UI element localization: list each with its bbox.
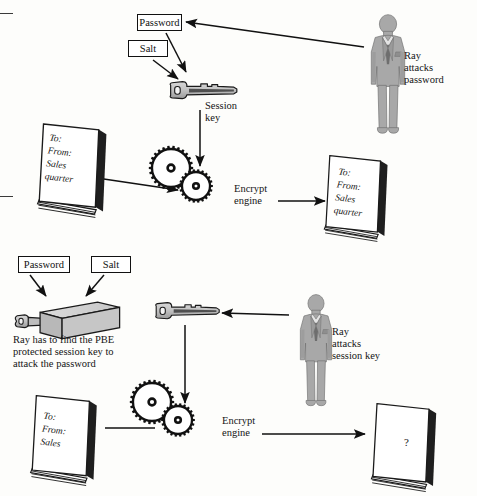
- encrypt-engine-label-top: Encrypt engine: [234, 183, 267, 207]
- arrow-attacker-to-session-key: [222, 313, 289, 315]
- ciphertext-doc-text-top: To: From: Sales quarter: [333, 165, 368, 220]
- plaintext-doc-text-top: To: From: Sales quarter: [44, 131, 79, 186]
- arrow-attacker-to-password: [186, 22, 364, 47]
- key-icon: [170, 82, 237, 99]
- businessman-silhouette-icon: [300, 295, 331, 406]
- figure-canvas: Password Salt Session key Encrypt engine…: [0, 0, 477, 496]
- encrypt-engine-label-bottom: Encrypt engine: [222, 415, 255, 439]
- attacker-label-top: Ray attacks password: [404, 50, 444, 86]
- salt-box-top[interactable]: Salt: [128, 40, 168, 57]
- gear-pair-icon: [149, 146, 213, 203]
- unknown-doc-text: ?: [404, 436, 409, 449]
- pbe-note-text: Ray has to find the PBE protected sessio…: [13, 334, 114, 370]
- businessman-silhouette-icon: [371, 15, 404, 134]
- plaintext-doc-text-bottom: To: From: Sales: [40, 410, 68, 452]
- arrow-password-to-pbebox: [30, 275, 46, 296]
- session-key-label-top: Session key: [205, 100, 237, 124]
- arrow-salt-to-key: [153, 60, 178, 79]
- key-icon: [156, 303, 219, 319]
- password-box-bottom[interactable]: Password: [18, 256, 70, 273]
- arrow-salt-to-pbebox: [86, 275, 104, 296]
- password-box-top[interactable]: Password: [137, 14, 182, 31]
- salt-box-bottom[interactable]: Salt: [91, 256, 131, 273]
- arrow-password-to-key: [166, 33, 186, 72]
- attacker-label-bottom: Ray attacks session key: [332, 326, 380, 362]
